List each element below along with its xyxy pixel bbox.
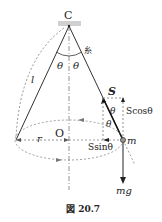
label-theta-mass1: θ (110, 107, 115, 116)
mass-bob (121, 138, 126, 143)
weight-arrowhead (120, 177, 126, 184)
label-pivot: C (64, 10, 72, 21)
label-theta-left: θ (57, 61, 63, 71)
label-tension: S (108, 86, 116, 97)
label-weight: mg (116, 186, 132, 196)
radius-arrow-right (64, 138, 69, 142)
orbit-arrow-bottom (56, 158, 62, 162)
label-length: l (31, 75, 34, 85)
label-theta-mass2: θ (106, 120, 111, 129)
orbit-arrow-top (78, 118, 84, 122)
scos-arrowhead (121, 97, 125, 102)
figure-caption: 図 20.7 (66, 205, 100, 214)
label-ssin: Ssinθ (88, 143, 113, 152)
label-mass: m (127, 136, 136, 146)
label-scos: Scosθ (126, 107, 153, 116)
label-radius: r (37, 134, 42, 144)
length-arc (16, 28, 64, 138)
label-theta-right: θ (73, 61, 79, 71)
label-center: O (55, 128, 64, 139)
label-string: 糸 (84, 47, 92, 55)
pivot-point (68, 25, 70, 27)
